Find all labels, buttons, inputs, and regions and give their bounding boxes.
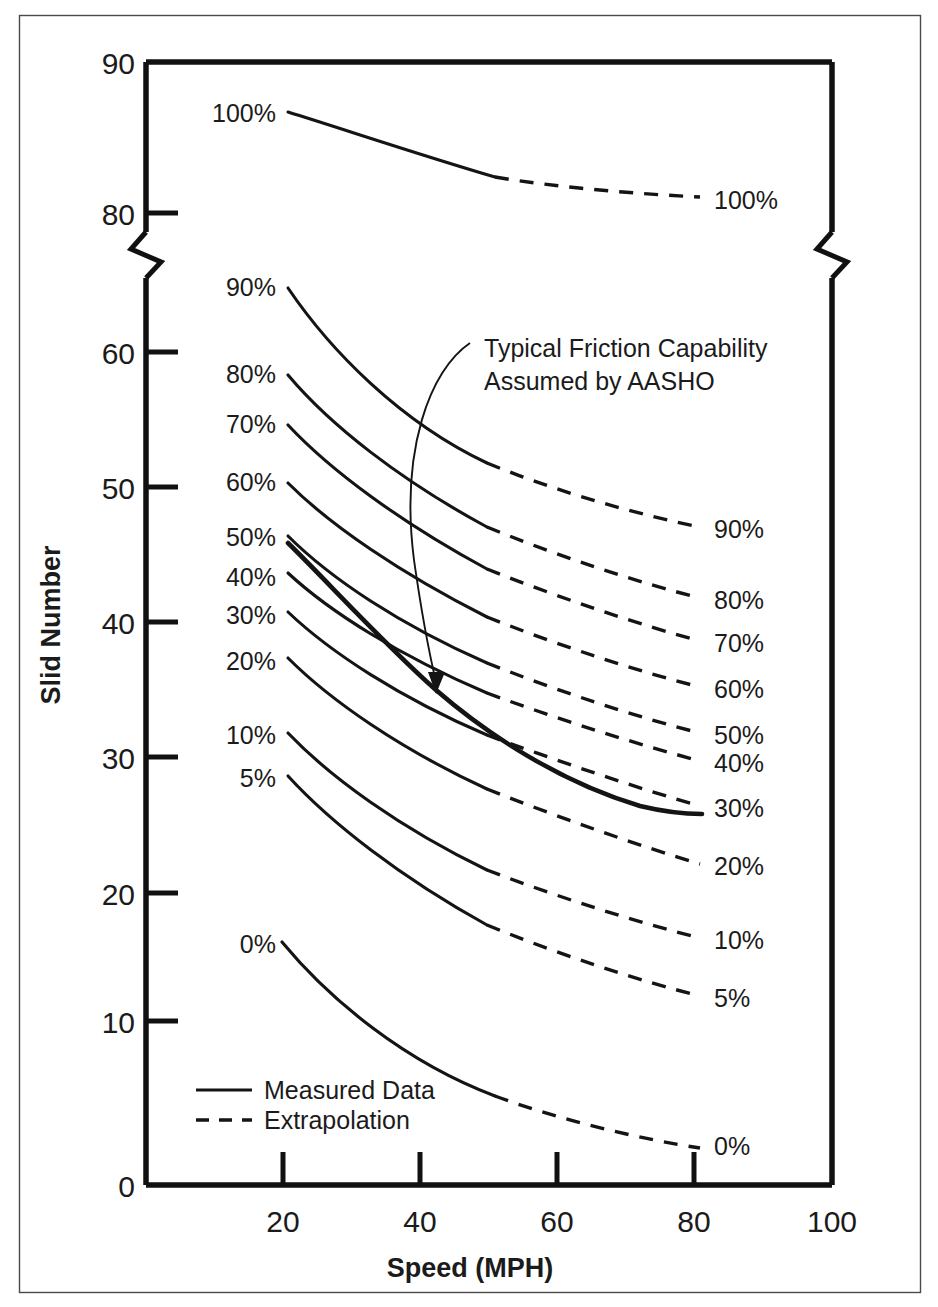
left-label-80: 80% [226, 360, 276, 388]
right-label-5: 5% [714, 984, 750, 1012]
right-label-60: 60% [714, 675, 764, 703]
left-label-40: 40% [226, 563, 276, 591]
aasho-typical-friction-curve [288, 543, 702, 814]
series-100 [288, 112, 700, 197]
left-label-90: 90% [226, 273, 276, 301]
right-label-40: 40% [714, 749, 764, 777]
right-label-80: 80% [714, 586, 764, 614]
series-100-measured [288, 112, 495, 177]
left-label-20: 20% [226, 647, 276, 675]
y-axis-label-60: 60 [102, 337, 135, 370]
right-label-90: 90% [714, 515, 764, 543]
left-label-10: 10% [226, 721, 276, 749]
x-axis-label-100: 100 [807, 1205, 857, 1238]
y-axis-label-0: 0 [118, 1170, 135, 1203]
left-label-60: 60% [226, 468, 276, 496]
right-label-70: 70% [714, 629, 764, 657]
y-axis-break-right [817, 232, 847, 278]
right-label-100: 100% [714, 186, 778, 214]
x-axis-label-80: 80 [677, 1205, 710, 1238]
x-axis-label-20: 20 [266, 1205, 299, 1238]
series-0-measured [282, 942, 495, 1096]
left-label-50: 50% [226, 523, 276, 551]
y-axis-label-80: 80 [102, 198, 135, 231]
left-label-5: 5% [240, 764, 276, 792]
figure-root: 90 80 60 50 40 30 20 10 0 20 40 60 80 10… [0, 0, 938, 1307]
legend-label-extrapolation: Extrapolation [264, 1106, 410, 1134]
right-label-20: 20% [714, 852, 764, 880]
series-0-extrapolation [495, 1096, 700, 1148]
series-40-measured [288, 573, 487, 693]
left-label-100: 100% [212, 99, 276, 127]
series-5 [288, 776, 700, 996]
series-10-extrapolation [487, 870, 700, 938]
series-20-measured [288, 658, 487, 789]
annotation-line-1: Typical Friction Capability [484, 334, 768, 362]
left-label-0: 0% [240, 930, 276, 958]
series-50 [288, 536, 700, 733]
right-label-30: 30% [714, 794, 764, 822]
y-axis-label-90: 90 [102, 47, 135, 80]
y-axis-label-10: 10 [102, 1006, 135, 1039]
right-label-10: 10% [714, 926, 764, 954]
x-axis-title: Speed (MPH) [387, 1253, 554, 1283]
x-axis-label-60: 60 [540, 1205, 573, 1238]
series-30-measured [288, 612, 487, 735]
y-axis-label-20: 20 [102, 878, 135, 911]
series-50-extrapolation [487, 663, 700, 733]
annotation-line-2: Assumed by AASHO [484, 367, 715, 395]
left-label-70: 70% [226, 410, 276, 438]
left-label-30: 30% [226, 601, 276, 629]
series-80-extrapolation [487, 527, 700, 598]
legend-label-measured: Measured Data [264, 1076, 435, 1104]
y-axis-title: Slid Number [36, 545, 66, 705]
series-30-extrapolation [487, 735, 700, 806]
x-axis-label-40: 40 [403, 1205, 436, 1238]
series-10-measured [288, 733, 487, 870]
right-label-0: 0% [714, 1132, 750, 1160]
right-label-50: 50% [714, 721, 764, 749]
y-axis-label-50: 50 [102, 472, 135, 505]
series-80 [288, 375, 700, 598]
series-5-measured [288, 776, 487, 925]
y-axis-label-30: 30 [102, 742, 135, 775]
series-90-extrapolation [487, 463, 700, 527]
slid-number-vs-speed-chart: 90 80 60 50 40 30 20 10 0 20 40 60 80 10… [0, 0, 938, 1307]
series-5-extrapolation [487, 925, 700, 996]
series-20-extrapolation [487, 789, 700, 864]
series-90 [288, 288, 700, 527]
y-axis-label-40: 40 [102, 607, 135, 640]
legend: Measured Data Extrapolation [196, 1076, 435, 1134]
series-100-extrapolation [495, 177, 700, 197]
series-90-measured [288, 288, 487, 463]
y-axis-break-left [131, 232, 161, 278]
series-10 [288, 733, 700, 938]
